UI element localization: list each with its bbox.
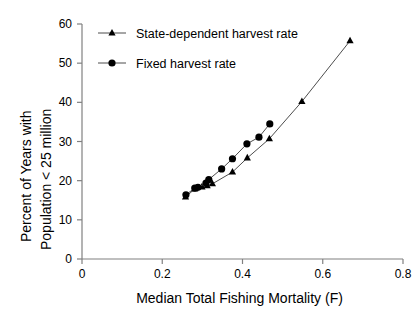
legend-label-fixed: Fixed harvest rate (136, 57, 236, 71)
data-point-1-7 (244, 154, 251, 161)
chart-figure: 00.20.40.60.80102030405060 Percent of Ye… (0, 0, 419, 319)
legend-marker-1 (108, 29, 115, 36)
x-tick-label-4: 0.8 (388, 267, 418, 281)
data-point-1-10 (346, 37, 353, 44)
x-tick-label-3: 0.6 (308, 267, 338, 281)
data-point-2-3 (194, 184, 201, 191)
data-point-2-8 (243, 140, 250, 147)
series-2 (182, 120, 273, 198)
data-point-2-9 (255, 134, 262, 141)
x-tick-label-0: 0 (67, 267, 97, 281)
x-tick-label-1: 0.2 (147, 267, 177, 281)
data-point-2-1 (182, 191, 189, 198)
data-point-2-10 (266, 120, 273, 127)
y-axis-title: Percent of Years with Population < 25 mi… (0, 0, 56, 268)
y-axis-title-line-2: Population < 25 million (38, 109, 54, 250)
legend-label-state-dependent: State-dependent harvest rate (136, 27, 298, 41)
plot-area (0, 0, 419, 319)
x-axis-title: Median Total Fishing Mortality (F) (0, 290, 419, 306)
axes (77, 24, 403, 264)
y-axis-title-line-1: Percent of Years with (18, 110, 34, 242)
data-point-2-7 (229, 155, 236, 162)
legend-markers (98, 29, 126, 67)
data-point-2-5 (205, 176, 212, 183)
legend-marker-2 (108, 59, 115, 66)
data-point-2-6 (218, 165, 225, 172)
data-point-1-6 (229, 168, 236, 175)
x-tick-label-2: 0.4 (228, 267, 258, 281)
